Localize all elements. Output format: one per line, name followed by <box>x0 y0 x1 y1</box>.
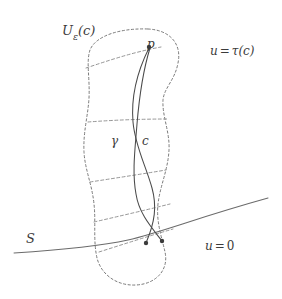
lower-level-label-rhs: 0 <box>227 239 235 253</box>
surface-s-label: S <box>26 232 35 245</box>
curve-gamma-label: γ <box>111 135 118 147</box>
neighborhood-boundary <box>84 29 179 285</box>
point-gamma-foot-dot <box>144 241 148 245</box>
upper-level-label-rhs: τ(c) <box>232 44 255 58</box>
point-p-label: p <box>147 38 155 50</box>
point-c-foot-dot <box>160 239 164 243</box>
lower-level-label-operator: = <box>213 239 227 253</box>
curve-c-label: c <box>142 135 149 147</box>
upper-level-label-operator: = <box>218 44 232 58</box>
upper-level-label-lhs: u <box>210 44 218 58</box>
upper-level-label: u=τ(c) <box>210 45 255 57</box>
figure-canvas: Uε(c) u=τ(c) u=0 p γ c S <box>0 0 282 299</box>
mid-level-line-3 <box>94 204 170 222</box>
lower-level-label-lhs: u <box>205 239 213 253</box>
neighborhood-label-subscript: ε <box>73 31 78 42</box>
mid-level-line-1 <box>88 119 168 122</box>
mid-level-line-2 <box>90 170 166 182</box>
neighborhood-label: Uε(c) <box>62 24 95 40</box>
neighborhood-label-argument: (c) <box>78 23 95 38</box>
neighborhood-label-base: U <box>62 23 73 38</box>
lower-level-label: u=0 <box>205 240 234 252</box>
